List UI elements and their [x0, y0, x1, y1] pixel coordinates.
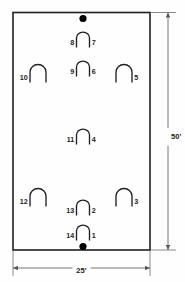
arch-13-2-right-label: 2: [92, 206, 96, 215]
top-center-dot: [79, 15, 86, 22]
court-boundary-rectangle: [13, 13, 150, 251]
horizontal-dimension-label: 25': [76, 266, 86, 275]
center-dot-markers-group: [79, 15, 86, 250]
arch-10-left-label: 10: [20, 73, 28, 82]
horizontal-dimension-arrow-right: [145, 266, 150, 271]
arch-8-7-right-label: 7: [92, 38, 96, 47]
arch-9-6-left-label: 9: [70, 67, 74, 76]
arch-12: 12: [20, 189, 46, 207]
bottom-center-dot: [79, 243, 86, 250]
arch-13-2: 132: [66, 200, 95, 215]
arch-3: 3: [116, 189, 138, 207]
arch-14-1: 141: [66, 225, 95, 240]
arch-12-left-label: 12: [20, 197, 28, 206]
arch-11-4: 114: [67, 129, 96, 144]
court-diagram: 8796105114123132141 50' 25': [0, 0, 185, 282]
arch-11-4-shape: [77, 129, 90, 144]
arch-markers-group: 8796105114123132141: [20, 32, 138, 240]
arch-5: 5: [116, 65, 138, 83]
arch-11-4-left-label: 11: [67, 135, 75, 144]
arch-14-1-right-label: 1: [92, 231, 96, 240]
arch-13-2-shape: [77, 200, 90, 215]
vertical-dimension-label: 50': [171, 132, 181, 141]
arch-10: 10: [20, 65, 46, 83]
vertical-dimension-arrow-top: [166, 13, 171, 18]
vertical-dimension-arrow-bottom: [166, 245, 171, 250]
arch-3-shape: [116, 189, 132, 207]
arch-8-7: 87: [70, 32, 95, 47]
arch-14-1-left-label: 14: [66, 231, 74, 240]
arch-5-shape: [116, 65, 132, 83]
court-outline-group: [13, 13, 150, 251]
arch-8-7-shape: [77, 32, 90, 47]
arch-9-6: 96: [70, 61, 95, 76]
arch-10-shape: [30, 65, 46, 83]
dimension-labels-group: 50' 25': [76, 132, 181, 275]
arch-14-1-shape: [77, 225, 90, 240]
arch-8-7-left-label: 8: [70, 38, 74, 47]
arch-5-right-label: 5: [134, 73, 138, 82]
arch-9-6-shape: [77, 61, 90, 76]
arch-12-shape: [30, 189, 46, 207]
arch-3-right-label: 3: [134, 197, 138, 206]
arch-9-6-right-label: 6: [92, 67, 96, 76]
arch-11-4-right-label: 4: [92, 135, 96, 144]
court-diagram-canvas: 8796105114123132141 50' 25': [0, 0, 185, 282]
horizontal-dimension-arrow-left: [13, 266, 18, 271]
arch-13-2-left-label: 13: [66, 206, 74, 215]
